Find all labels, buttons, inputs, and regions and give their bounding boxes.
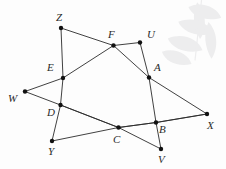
geometry-figure: ZFUEAWDXBCYV [0,0,226,169]
vertex-dot-w [23,89,27,93]
line-d-c-v [61,105,162,149]
vertex-label-z: Z [56,12,62,23]
leaf-watermark [160,0,223,70]
vertex-dot-z [59,26,63,30]
vertex-label-v: V [158,154,165,165]
line-z-e-d-y [52,28,63,141]
line-y-c-b-x [52,114,207,141]
vertex-dot-v [159,147,163,151]
vertex-label-c: C [113,134,120,145]
vertex-label-w: W [8,93,17,104]
vertex-dot-f [111,43,115,47]
vertex-dot-b [154,120,158,124]
vertex-dot-u [138,40,142,44]
vertex-label-y: Y [48,146,54,157]
vertex-dot-x [205,112,209,116]
vertex-label-u: U [147,29,155,40]
vertex-label-d: D [47,107,55,118]
line-u-a-b-v [140,43,161,150]
vertex-dot-e [61,76,65,80]
vertex-label-a: A [154,62,161,73]
vertex-dot-d [58,103,62,107]
vertex-label-f: F [108,29,115,40]
line-w-e-f-u [25,43,140,92]
vertex-label-x: X [207,120,214,131]
vertex-label-b: B [159,124,166,135]
vertex-dot-y [50,139,54,143]
vertex-dot-a [147,75,151,79]
vertex-label-e: E [47,62,54,73]
vertex-dot-c [116,125,120,129]
